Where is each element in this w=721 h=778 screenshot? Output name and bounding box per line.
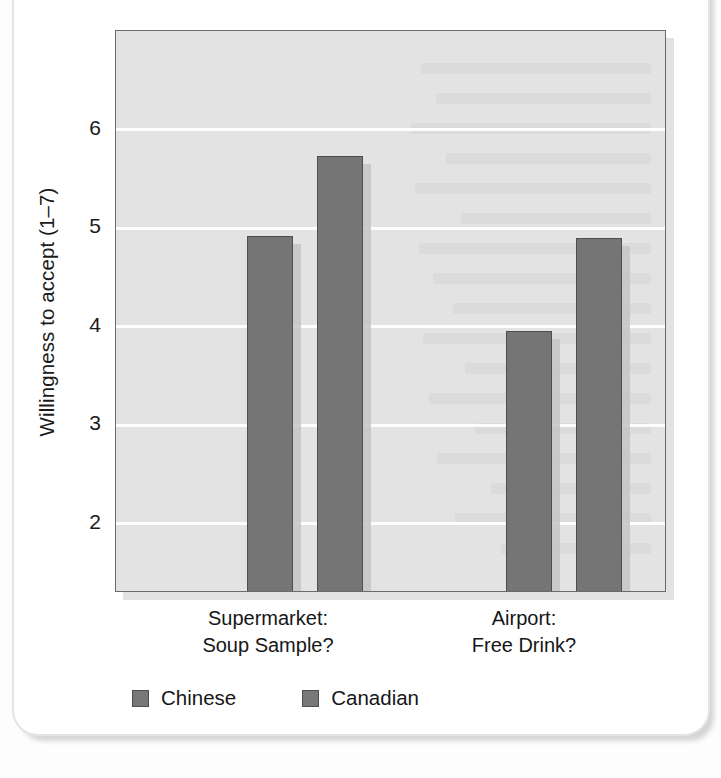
bleed-through-artifact [436, 93, 651, 104]
y-tick-label-3: 3 [71, 411, 101, 435]
bleed-through-artifact [446, 153, 651, 164]
legend-item-chinese: Chinese [132, 686, 236, 710]
gridline-5 [116, 227, 665, 230]
legend-label: Canadian [331, 686, 419, 710]
bar-canadian-group-0 [317, 156, 363, 592]
bleed-through-artifact [421, 63, 651, 74]
legend-label: Chinese [161, 686, 236, 710]
y-tick-label-5: 5 [71, 214, 101, 238]
x-category-label-1: Airport: Free Drink? [404, 605, 644, 659]
legend-swatch-icon [132, 690, 149, 707]
legend-swatch-icon [302, 690, 319, 707]
gridline-6 [116, 128, 665, 131]
bar-canadian-group-1 [576, 238, 622, 592]
x-category-line: Supermarket: [148, 605, 388, 632]
bleed-through-artifact [461, 213, 651, 224]
grouped-bar-chart-figure: 23456 Willingness to accept (1–7) Superm… [0, 0, 721, 778]
y-tick-label-2: 2 [71, 510, 101, 534]
y-axis-title: Willingness to accept (1–7) [35, 147, 59, 477]
x-category-line: Free Drink? [404, 632, 644, 659]
plot-area [115, 30, 666, 592]
x-category-line: Airport: [404, 605, 644, 632]
y-tick-label-4: 4 [71, 313, 101, 337]
y-tick-label-6: 6 [71, 116, 101, 140]
x-category-line: Soup Sample? [148, 632, 388, 659]
bar-chinese-group-1 [506, 331, 552, 592]
legend-item-canadian: Canadian [302, 686, 419, 710]
bar-chinese-group-0 [247, 236, 293, 592]
chart-legend: Chinese Canadian [132, 686, 485, 710]
x-category-label-0: Supermarket: Soup Sample? [148, 605, 388, 659]
bleed-through-artifact [415, 183, 651, 194]
